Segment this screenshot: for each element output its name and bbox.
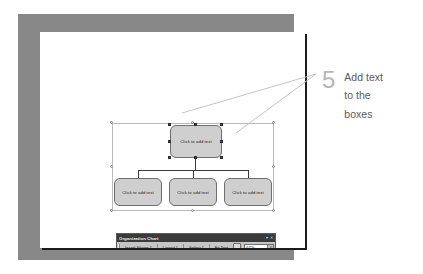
selection-handle-top-right[interactable] bbox=[272, 121, 275, 124]
toolbar-separator-3 bbox=[209, 244, 210, 249]
connector-drop-center bbox=[193, 170, 194, 178]
select-label: Select bbox=[189, 245, 201, 249]
org-chart-box-child-3[interactable]: Click to add text bbox=[224, 178, 272, 206]
toolbar-titlebar[interactable]: Organization Chart ▾ ✕ bbox=[117, 234, 275, 242]
presentation-frame: Click to add text Click to add text Clic… bbox=[18, 14, 294, 260]
select-button[interactable]: Select ▾ bbox=[186, 243, 207, 249]
box-handle-bottom-center[interactable] bbox=[194, 156, 197, 159]
layout-chevron-down-icon[interactable]: ▾ bbox=[176, 245, 178, 248]
zoom-value: 67% bbox=[245, 245, 267, 249]
box-handle-top-left[interactable] bbox=[168, 123, 171, 126]
step-number: 5 bbox=[322, 68, 335, 92]
selection-handle-bottom-right[interactable] bbox=[272, 209, 275, 212]
annotation-line-1: Add text bbox=[344, 68, 383, 86]
fit-text-label: Fit Text bbox=[215, 245, 228, 249]
box-handle-middle-left[interactable] bbox=[168, 140, 171, 143]
autoformat-icon[interactable] bbox=[233, 243, 241, 248]
selection-handle-bottom-center[interactable] bbox=[191, 209, 194, 212]
slide-surface[interactable]: Click to add text Click to add text Clic… bbox=[40, 32, 305, 248]
annotation-text: Add text to the boxes bbox=[344, 68, 383, 123]
org-chart-box-child-2[interactable]: Click to add text bbox=[169, 178, 217, 206]
insert-shape-chevron-down-icon[interactable]: ▾ bbox=[150, 245, 152, 248]
layout-label: Layout bbox=[163, 245, 176, 249]
toolbar-drag-grip[interactable] bbox=[118, 244, 120, 249]
insert-shape-button[interactable]: Insert Shape ▾ bbox=[122, 243, 155, 249]
selection-handle-middle-right[interactable] bbox=[272, 165, 275, 168]
toolbar-title: Organization Chart bbox=[119, 236, 264, 241]
org-chart-box-child-1[interactable]: Click to add text bbox=[114, 178, 162, 206]
toolbar-close-icon[interactable]: ✕ bbox=[270, 236, 273, 240]
step-annotation: 5 Add text to the boxes bbox=[322, 68, 383, 123]
selection-handle-bottom-left[interactable] bbox=[110, 209, 113, 212]
box-handle-bottom-left[interactable] bbox=[168, 156, 171, 159]
box-handle-middle-right[interactable] bbox=[220, 140, 223, 143]
layout-button[interactable]: Layout ▾ bbox=[160, 243, 182, 249]
toolbar-options-chevron-down-icon[interactable]: ▾ bbox=[266, 236, 268, 240]
insert-shape-label: Insert Shape bbox=[125, 245, 149, 249]
organization-chart[interactable]: Click to add text Click to add text Clic… bbox=[112, 123, 274, 211]
toolbar-separator-2 bbox=[183, 244, 184, 249]
selection-handle-middle-left[interactable] bbox=[110, 165, 113, 168]
zoom-combobox[interactable]: 67% ▾ bbox=[244, 244, 274, 249]
select-chevron-down-icon[interactable]: ▾ bbox=[202, 245, 204, 248]
connector-drop-left bbox=[138, 170, 139, 178]
organization-chart-toolbar[interactable]: Organization Chart ▾ ✕ Insert Shape ▾ La… bbox=[116, 233, 276, 248]
fit-text-button[interactable]: Fit Text bbox=[212, 243, 231, 249]
annotation-line-2: to the bbox=[344, 86, 383, 104]
toolbar-button-row: Insert Shape ▾ Layout ▾ Select ▾ Fit Tex… bbox=[117, 242, 275, 248]
selection-handle-top-left[interactable] bbox=[110, 121, 113, 124]
box-handle-top-center[interactable] bbox=[194, 123, 197, 126]
zoom-chevron-down-icon[interactable]: ▾ bbox=[267, 245, 273, 249]
org-chart-box-top[interactable]: Click to add text bbox=[170, 125, 222, 158]
annotation-line-3: boxes bbox=[344, 105, 383, 123]
box-handle-bottom-right[interactable] bbox=[220, 156, 223, 159]
connector-drop-right bbox=[248, 170, 249, 178]
box-handle-top-right[interactable] bbox=[220, 123, 223, 126]
toolbar-separator-1 bbox=[157, 244, 158, 249]
